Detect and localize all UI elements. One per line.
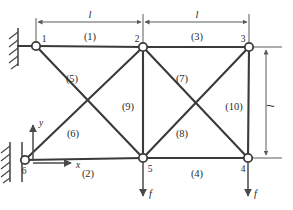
- member-label-1: (1): [84, 31, 97, 43]
- force-label-node-5: f: [149, 188, 154, 199]
- member-label-4: (4): [191, 168, 204, 180]
- member-label-5: (5): [66, 73, 79, 85]
- member-label-3: (3): [191, 31, 204, 43]
- node-label-2: 2: [135, 34, 140, 44]
- dimension-height: [252, 47, 282, 158]
- dimension-label-span-right: l: [196, 9, 199, 20]
- member-2: [25, 158, 143, 160]
- dimension-label-span-left: l: [89, 9, 92, 20]
- member-label-6: (6): [67, 128, 80, 140]
- dimension-label-height: l: [265, 104, 276, 107]
- support-top-wall: [9, 28, 18, 69]
- node-label-6: 6: [22, 166, 27, 176]
- member-label-9: (9): [122, 101, 135, 113]
- node-2: [139, 43, 147, 51]
- node-5: [139, 154, 147, 162]
- y-axis-label: y: [38, 118, 44, 128]
- member-label-2: (2): [82, 168, 95, 180]
- node-4: [244, 154, 252, 162]
- node-label-4: 4: [241, 164, 246, 174]
- node-label-5: 5: [148, 164, 153, 174]
- x-axis-label: x: [75, 160, 81, 170]
- node-3: [245, 43, 253, 51]
- member-10: [248, 47, 249, 158]
- node-1: [32, 42, 40, 50]
- node-6: [21, 156, 29, 164]
- node-label-1: 1: [42, 34, 47, 44]
- node-label-3: 3: [241, 34, 246, 44]
- coordinate-axes: [33, 125, 71, 163]
- support-bottom-wall: [1, 142, 22, 183]
- member-label-7: (7): [176, 73, 189, 85]
- member-1: [36, 46, 143, 47]
- member-label-10: (10): [225, 101, 243, 113]
- member-label-8: (8): [176, 128, 189, 140]
- truss-diagram-canvas: 1 2 3 4 5 6 (1) (2) (3) (4) (5) (6) (7) …: [0, 0, 293, 210]
- truss-diagram-figure: 1 2 3 4 5 6 (1) (2) (3) (4) (5) (6) (7) …: [0, 0, 293, 210]
- force-label-node-4: f: [254, 188, 259, 199]
